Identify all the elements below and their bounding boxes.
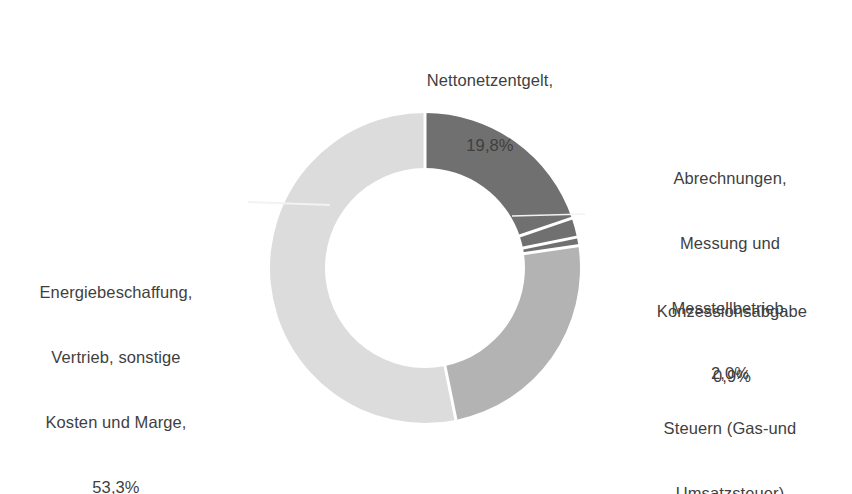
slice-label-abrechnungen-line2: Messung und	[608, 233, 852, 255]
slice-label-steuern-line2: Umsatzsteuer)	[608, 483, 852, 494]
slice-label-energiebeschaffung-line2: Vertrieb, sonstige	[2, 347, 230, 369]
slice-label-nettonetzentgelt: Nettonetzentgelt, 19,8%	[360, 26, 620, 200]
donut-chart: Nettonetzentgelt, 19,8% Abrechnungen, Me…	[0, 0, 852, 494]
slice-label-nettonetzentgelt-line1: Nettonetzentgelt,	[360, 70, 620, 92]
donut-slice[interactable]	[445, 246, 580, 420]
slice-label-nettonetzentgelt-value: 19,8%	[360, 135, 620, 157]
slice-label-energiebeschaffung-line1: Energiebeschaffung,	[2, 282, 230, 304]
slice-label-energiebeschaffung-value: 53,3%	[2, 477, 230, 494]
slice-label-abrechnungen-line1: Abrechnungen,	[608, 168, 852, 190]
slice-label-energiebeschaffung-line3: Kosten und Marge,	[2, 412, 230, 434]
slice-label-konzessionsabgabe-line1: Konzessionsabgabe	[612, 301, 852, 323]
slice-label-steuern: Steuern (Gas-und Umsatzsteuer) 24,1%	[608, 374, 852, 494]
slice-label-steuern-line1: Steuern (Gas-und	[608, 418, 852, 440]
slice-label-energiebeschaffung: Energiebeschaffung, Vertrieb, sonstige K…	[2, 238, 230, 494]
